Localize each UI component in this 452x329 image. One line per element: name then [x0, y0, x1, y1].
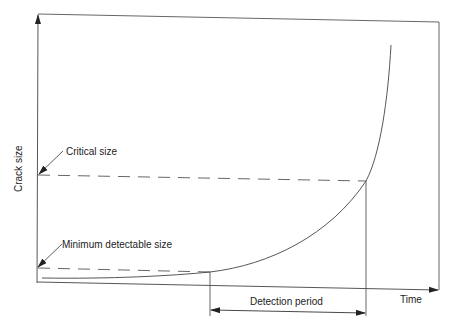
- y-axis: [37, 15, 38, 283]
- min-detectable-size-line: [38, 268, 210, 272]
- x-axis-label: Time: [400, 294, 422, 305]
- min-detectable-pointer: [38, 244, 62, 267]
- crack-growth-diagram: [0, 0, 452, 329]
- x-axis: [37, 282, 438, 290]
- min-detectable-size-label: Minimum detectable size: [62, 239, 172, 250]
- frame-top-line: [38, 14, 439, 22]
- critical-size-label: Critical size: [66, 146, 117, 157]
- critical-size-line: [38, 175, 366, 181]
- y-axis-label: Crack size: [13, 145, 24, 192]
- detection-period-label: Detection period: [250, 296, 323, 307]
- critical-size-pointer: [39, 151, 63, 174]
- detection-period-arrow: [211, 310, 365, 313]
